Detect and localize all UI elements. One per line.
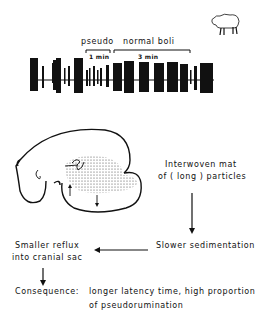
- flow-arrows: [0, 0, 264, 322]
- arrow-down-icon: [189, 228, 195, 234]
- arrow-left-icon: [94, 247, 100, 253]
- arrow-down-icon: [40, 280, 46, 286]
